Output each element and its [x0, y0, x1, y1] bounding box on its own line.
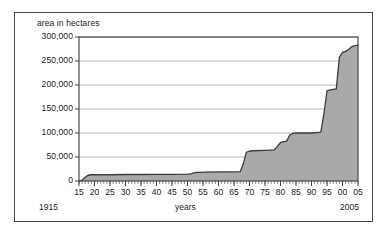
plot-area: 050,000100,000150,000200,000250,000300,0… — [15, 13, 374, 223]
y-tick-label: 100,000 — [19, 127, 73, 137]
y-tick-label: 150,000 — [19, 103, 73, 113]
chart-figure: area in hectares 050,000100,000150,00020… — [14, 12, 373, 222]
y-tick-label: 300,000 — [19, 31, 73, 41]
y-tick-label: 0 — [19, 175, 73, 185]
y-tick-label: 250,000 — [19, 55, 73, 65]
x-axis-title: years — [175, 202, 196, 212]
x-axis-end-year: 2005 — [331, 202, 359, 212]
x-tick-label: 05 — [347, 187, 369, 197]
y-tick-label: 200,000 — [19, 79, 73, 89]
y-tick-label: 50,000 — [19, 151, 73, 161]
x-axis-start-year: 1915 — [39, 202, 58, 212]
data-area-fill — [79, 45, 358, 181]
